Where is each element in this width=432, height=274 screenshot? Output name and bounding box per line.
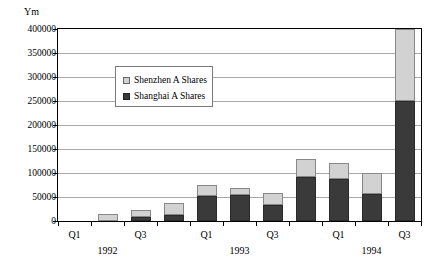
y-axis-tick-mark (53, 125, 57, 126)
legend-item-shanghai: Shanghai A Shares (123, 88, 212, 104)
x-axis-quarter-label: Q3 (385, 229, 425, 240)
legend-swatch-shenzhen-icon (123, 77, 130, 84)
bar-segment-shanghai (164, 215, 184, 221)
y-axis-tick-label: 350000 (0, 48, 56, 58)
bar-segment-shenzhen (263, 193, 283, 205)
y-axis-tick-label: 400000 (0, 24, 56, 34)
bar-segment-shenzhen (131, 210, 151, 217)
y-axis-unit-label: Ym (24, 6, 39, 17)
x-axis-quarter-label: Q1 (55, 229, 95, 240)
legend-item-shenzhen: Shenzhen A Shares (123, 72, 212, 88)
y-axis-tick-mark (53, 221, 57, 222)
legend-swatch-shanghai-icon (123, 93, 130, 100)
y-axis-tick-mark (53, 29, 57, 30)
bar-segment-shanghai (395, 101, 415, 221)
x-axis-quarter-label: Q1 (187, 229, 227, 240)
y-axis-tick-label: 250000 (0, 96, 56, 106)
y-axis-tick-label: 100000 (0, 168, 56, 178)
bar-segment-shenzhen (164, 203, 184, 215)
bar-segment-shenzhen (362, 173, 382, 194)
x-axis-tick-mark (157, 222, 158, 226)
x-axis-year-label: 1994 (346, 245, 398, 256)
bar-segment-shenzhen (296, 159, 316, 177)
y-axis-tick-label: 0 (0, 216, 56, 226)
bar-segment-shanghai (296, 177, 316, 221)
y-axis-tick-mark (53, 101, 57, 102)
chart-container: Ym 4000003500003000002500002000001500001… (0, 0, 432, 274)
bar-segment-shanghai (263, 205, 283, 221)
bar-segment-shenzhen (230, 188, 250, 194)
x-axis-tick-mark (124, 222, 125, 226)
x-axis-tick-mark (223, 222, 224, 226)
y-axis-tick-label: 200000 (0, 120, 56, 130)
y-axis-tick-mark (53, 149, 57, 150)
x-axis-tick-mark (322, 222, 323, 226)
x-axis-tick-mark (388, 222, 389, 226)
bar-segment-shanghai (197, 196, 217, 221)
x-axis-tick-mark (190, 222, 191, 226)
x-axis-quarter-label: Q3 (253, 229, 293, 240)
bar-segment-shanghai (230, 195, 250, 221)
y-axis-tick-mark (53, 173, 57, 174)
x-axis-year-label: 1992 (82, 245, 134, 256)
x-axis-tick-mark (355, 222, 356, 226)
bar-segment-shenzhen (98, 214, 118, 221)
y-axis-tick-label: 50000 (0, 192, 56, 202)
bar-segment-shanghai (131, 217, 151, 221)
y-axis-tick-mark (53, 53, 57, 54)
x-axis-year-label: 1993 (214, 245, 266, 256)
x-axis-tick-mark (256, 222, 257, 226)
bar-segment-shanghai (329, 179, 349, 221)
legend-label-shanghai: Shanghai A Shares (134, 91, 205, 101)
x-axis-tick-mark (421, 222, 422, 226)
bar-segment-shenzhen (197, 185, 217, 196)
x-axis-tick-mark (289, 222, 290, 226)
bar-segment-shenzhen (395, 29, 415, 101)
bar-series-layer (58, 29, 421, 221)
x-axis-tick-mark (91, 222, 92, 226)
y-axis-tick-label: 150000 (0, 144, 56, 154)
x-axis-tick-mark (58, 222, 59, 226)
bar-segment-shanghai (362, 194, 382, 221)
legend-label-shenzhen: Shenzhen A Shares (134, 75, 207, 85)
y-axis-tick-mark (53, 197, 57, 198)
x-axis-quarter-label: Q1 (319, 229, 359, 240)
y-axis-tick-label: 300000 (0, 72, 56, 82)
x-axis-quarter-label: Q3 (121, 229, 161, 240)
chart-legend: Shenzhen A Shares Shanghai A Shares (115, 66, 213, 107)
bar-segment-shenzhen (329, 163, 349, 178)
y-axis-tick-mark (53, 77, 57, 78)
